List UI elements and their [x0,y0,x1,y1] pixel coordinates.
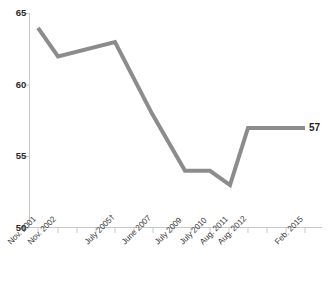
y-tick-label-60: 60 [2,80,26,90]
y-tick-label-55: 55 [2,151,26,161]
chart-plot-area [0,0,328,281]
x-axis-ticks [38,228,305,233]
line-chart: 65 60 55 50 Nov. 2001 Nov. 2002 July 200… [0,0,328,281]
y-axis-labels: 65 60 55 50 [0,0,26,281]
y-tick-label-65: 65 [2,8,26,18]
y-tick-label-50: 50 [2,223,26,233]
data-line [38,28,305,185]
series-end-value-label: 57 [309,122,320,133]
